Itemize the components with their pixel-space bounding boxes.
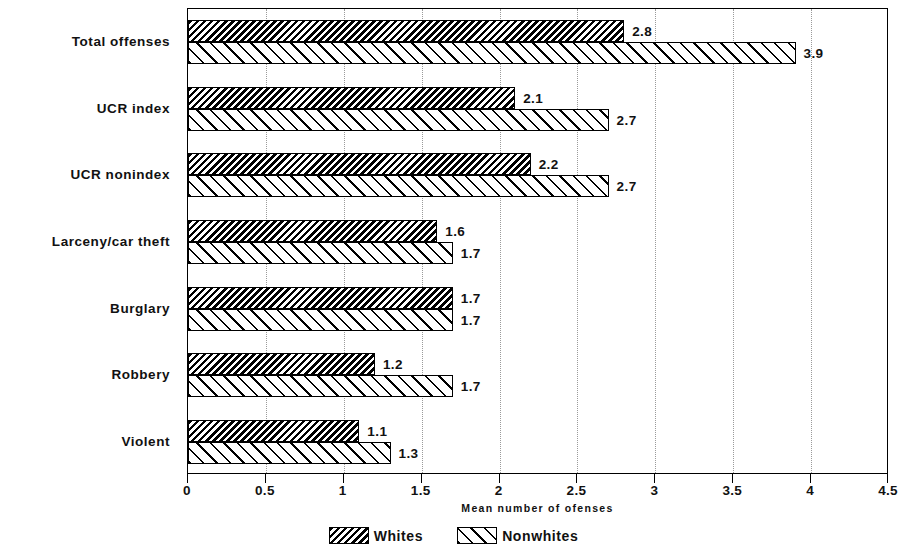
- x-axis-tick-label: 0.5: [255, 483, 275, 498]
- x-axis-tick: [499, 474, 500, 483]
- legend-label-whites: Whites: [374, 528, 424, 544]
- x-axis-tick: [810, 474, 811, 483]
- x-axis-tick: [421, 474, 422, 483]
- x-axis-tick-label: 2: [495, 483, 503, 498]
- bar-value-label: 1.6: [445, 224, 465, 239]
- bar-whites: [188, 20, 624, 42]
- y-axis-category-label: Burglary: [110, 300, 170, 315]
- bar-whites: [188, 153, 531, 175]
- y-axis-category-label: UCR index: [97, 100, 170, 115]
- x-axis-tick-label: 3: [650, 483, 658, 498]
- chart-legend: Whites Nonwhites: [0, 527, 907, 544]
- bar-nonwhites: [188, 175, 609, 197]
- x-axis-tick: [343, 474, 344, 483]
- bar-whites: [188, 220, 437, 242]
- x-axis-tick-label: 1.5: [411, 483, 431, 498]
- bar-value-label: 1.7: [461, 290, 481, 305]
- gridline: [500, 9, 501, 473]
- bar-nonwhites: [188, 42, 796, 64]
- bar-value-label: 2.7: [617, 112, 637, 127]
- bar-whites: [188, 287, 453, 309]
- bar-whites: [188, 420, 359, 442]
- gridline: [655, 9, 656, 473]
- y-axis-category-labels: Total offensesUCR indexUCR nonindexLarce…: [0, 0, 178, 474]
- y-axis-category-label: Violent: [121, 433, 170, 448]
- x-axis-tick: [732, 474, 733, 483]
- bar-value-label: 1.3: [399, 445, 419, 460]
- bar-nonwhites: [188, 375, 453, 397]
- bar-value-label: 1.2: [383, 357, 403, 372]
- legend-label-nonwhites: Nonwhites: [502, 528, 578, 544]
- bar-value-label: 1.7: [461, 379, 481, 394]
- bar-nonwhites: [188, 242, 453, 264]
- bar-nonwhites: [188, 442, 391, 464]
- bar-whites: [188, 87, 515, 109]
- y-axis-category-label: Robbery: [111, 367, 170, 382]
- gridline: [733, 9, 734, 473]
- x-axis-tick: [654, 474, 655, 483]
- bar-value-label: 1.7: [461, 246, 481, 261]
- y-axis-category-label: Total offenses: [72, 34, 170, 49]
- x-axis-tick-label: 1: [339, 483, 347, 498]
- gridline: [811, 9, 812, 473]
- bar-chart: Total offensesUCR indexUCR nonindexLarce…: [0, 0, 907, 554]
- bar-value-label: 2.8: [632, 24, 652, 39]
- legend-swatch-nonwhites-icon: [457, 527, 497, 544]
- bar-value-label: 1.1: [367, 423, 387, 438]
- bar-whites: [188, 353, 375, 375]
- x-axis-tick: [576, 474, 577, 483]
- bar-value-label: 3.9: [804, 46, 824, 61]
- legend-entry-whites: Whites: [329, 527, 424, 544]
- bar-nonwhites: [188, 109, 609, 131]
- plot-area: 2.83.92.12.72.22.71.61.71.71.71.21.71.11…: [187, 8, 888, 474]
- bar-value-label: 1.7: [461, 312, 481, 327]
- bar-value-label: 2.7: [617, 179, 637, 194]
- x-axis-tick: [265, 474, 266, 483]
- bar-value-label: 2.1: [523, 90, 543, 105]
- x-axis-tick: [187, 474, 188, 483]
- x-axis-title: Mean number of ofenses: [187, 502, 888, 514]
- bar-nonwhites: [188, 309, 453, 331]
- x-axis-tick: [887, 474, 888, 483]
- x-axis-tick-label: 4.5: [878, 483, 898, 498]
- x-axis-tick-labels: 00.511.522.533.544.5: [187, 483, 888, 503]
- x-axis-tick-label: 0: [183, 483, 191, 498]
- gridline: [577, 9, 578, 473]
- x-axis-tick-label: 3.5: [722, 483, 742, 498]
- bar-value-label: 2.2: [539, 157, 559, 172]
- x-axis-tick-label: 4: [806, 483, 814, 498]
- y-axis-category-label: Larceny/car theft: [52, 234, 170, 249]
- legend-swatch-whites-icon: [329, 527, 369, 544]
- x-axis-tick-label: 2.5: [567, 483, 587, 498]
- legend-entry-nonwhites: Nonwhites: [457, 527, 578, 544]
- y-axis-category-label: UCR nonindex: [70, 167, 170, 182]
